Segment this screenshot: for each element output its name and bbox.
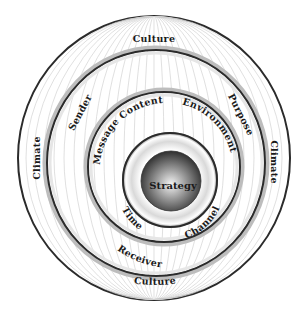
communication-strategy-diagram: Culture Culture Climate Climate Sender P… [0, 0, 302, 316]
label-climate-right: Climate [269, 140, 280, 184]
label-culture-top: Culture [133, 33, 176, 44]
label-strategy: Strategy [149, 180, 198, 191]
label-climate-left: Climate [31, 136, 42, 180]
